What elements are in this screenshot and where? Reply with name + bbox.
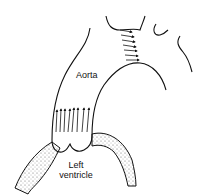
aorta-diagram (0, 0, 202, 196)
arch-flow-arrows (120, 30, 139, 60)
aorta-vessel (52, 16, 192, 152)
aorta-label: Aorta (76, 70, 98, 80)
left-ventricle-label-line1: Left (56, 160, 96, 170)
left-ventricle-label: Left ventricle (56, 160, 96, 180)
base-flow-arrows (56, 108, 89, 132)
ventricle-wall-left (15, 142, 60, 194)
ventricle-wall-right (92, 133, 136, 186)
left-ventricle-label-line2: ventricle (56, 170, 96, 180)
